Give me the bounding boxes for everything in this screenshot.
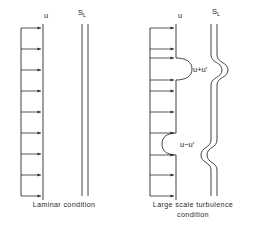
panel-turbulent	[150, 24, 228, 200]
laminar-flame-speed-label: SL	[78, 8, 86, 17]
turbulent-perturbation-lower-label: u−u′	[180, 140, 194, 149]
turbulent-flame-front-line-1	[201, 24, 222, 196]
turbulent-velocity-arrows	[150, 28, 174, 196]
flame-front-diagram	[0, 0, 257, 234]
turbulent-flame-speed-label: SL	[212, 7, 220, 16]
laminar-velocity-arrows	[21, 28, 41, 196]
laminar-flame-speed-subscript: L	[83, 12, 86, 18]
turbulent-flame-speed-subscript: L	[217, 11, 220, 17]
turbulent-velocity-label: u	[178, 11, 182, 20]
caption-turbulent-line2: condition	[129, 210, 257, 220]
laminar-velocity-label: u	[44, 11, 48, 20]
turbulent-perturbation-upper-label: u+u′	[193, 65, 207, 74]
caption-turbulent: Large scale turbulence condition	[129, 200, 257, 220]
caption-turbulent-line1: Large scale turbulence	[153, 200, 233, 209]
turbulent-flame-front-line-2	[207, 24, 228, 196]
caption-laminar: Laminar condition	[0, 200, 128, 210]
panel-laminar	[21, 24, 88, 200]
